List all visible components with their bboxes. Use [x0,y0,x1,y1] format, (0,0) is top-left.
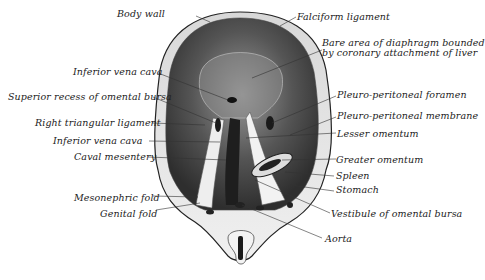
label-stomach: Stomach [336,184,379,195]
label-greater-omentum: Greater omentum [336,154,423,165]
label-pleuro-peritoneal-membrane: Pleuro-peritoneal membrane [337,110,478,121]
neural-canal [238,236,243,260]
bare-area-outline [199,53,282,119]
label-pleuro-peritoneal-foramen: Pleuro-peritoneal foramen [337,89,467,100]
label-spleen: Spleen [336,170,370,181]
label-right-triangular-ligament: Right triangular ligament [35,117,161,128]
label-vestibule-of-omental-bursa: Vestibule of omental bursa [331,208,462,219]
label-mesonephric-fold: Mesonephric fold [74,192,160,203]
label-caval-mesentery: Caval mesentery [74,151,156,162]
label-lesser-omentum: Lesser omentum [337,128,419,139]
label-bare-area-line2: by coronary attachment of liver [322,47,477,58]
superior-recess-spot [215,118,221,132]
pleuro-peritoneal-foramen-spot [266,116,274,130]
label-aorta: Aorta [325,233,352,244]
label-superior-recess: Superior recess of omental bursa [8,91,172,102]
label-inferior-vena-cava-upper: Inferior vena cava [73,66,162,77]
label-inferior-vena-cava-lower: Inferior vena cava [53,135,142,146]
label-genital-fold: Genital fold [100,208,157,219]
inferior-vena-cava-spot [227,97,237,103]
label-falciform-ligament: Falciform ligament [297,11,390,22]
label-body-wall: Body wall [117,8,165,19]
